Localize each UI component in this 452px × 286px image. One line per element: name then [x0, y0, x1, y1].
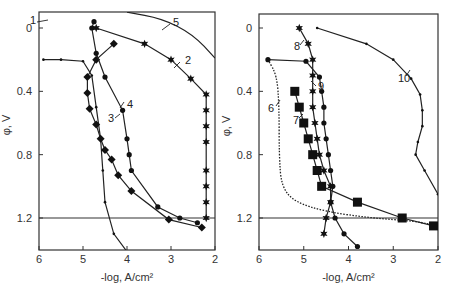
series-8	[296, 24, 335, 238]
chart-figure: 6543200.40.81.2-log, A/cm²φ, V1234565432…	[0, 0, 452, 286]
curve-label-4: 4	[127, 98, 133, 110]
x-tick-label: 2	[435, 253, 441, 265]
curve-label-9: 9	[318, 80, 324, 92]
y-tick-label: 0.4	[17, 85, 32, 97]
y-tick-label: 0.8	[237, 149, 252, 161]
curve-label-10: 10	[398, 72, 410, 84]
x-tick-label: 4	[124, 253, 130, 265]
curve-label-7: 7	[293, 114, 299, 126]
y-axis-label: φ, V	[0, 114, 12, 135]
chart-panel-right: 6543200.40.81.2-log, A/cm²φ, V678910	[220, 14, 441, 283]
x-tick-label: 6	[256, 253, 262, 265]
x-tick-label: 3	[168, 253, 174, 265]
chart-panel-left: 6543200.40.81.2-log, A/cm²φ, V12345	[0, 12, 218, 283]
y-tick-label: 0.4	[237, 85, 252, 97]
y-tick-label: 1.2	[17, 212, 32, 224]
x-tick-label: 5	[301, 253, 307, 265]
y-tick-label: 0.8	[17, 149, 32, 161]
curve-label-1: 1	[30, 14, 36, 26]
x-tick-label: 6	[36, 253, 42, 265]
x-axis-label: -log, A/cm²	[101, 271, 154, 283]
x-tick-label: 3	[390, 253, 396, 265]
y-tick-label: 1.2	[237, 212, 252, 224]
series-10	[316, 27, 439, 196]
curve-label-6: 6	[268, 102, 274, 114]
series-4	[89, 19, 200, 225]
plot-frame	[39, 12, 215, 250]
curve-label-5: 5	[173, 16, 179, 28]
curve-label-2: 2	[185, 54, 191, 66]
y-tick-label: 0	[246, 22, 252, 34]
y-axis-label: φ, V	[220, 115, 232, 136]
curve-label-8: 8	[294, 40, 300, 52]
x-tick-label: 5	[80, 253, 86, 265]
x-tick-label: 4	[345, 253, 351, 265]
curve-label-3: 3	[108, 112, 114, 124]
series-5	[127, 12, 215, 58]
x-tick-label: 2	[212, 253, 218, 265]
plot-frame	[259, 14, 438, 250]
x-axis-label: -log, A/cm²	[322, 271, 375, 283]
